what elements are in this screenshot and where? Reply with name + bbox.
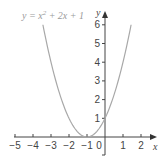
x-axis-label: x [152, 141, 158, 152]
y-tick-label: 5 [94, 38, 100, 49]
x-tick-label: 0 [96, 140, 102, 151]
x-tick-label: −4 [27, 140, 39, 151]
y-tick-label: 1 [94, 113, 100, 124]
y-tick-label: 4 [94, 57, 100, 68]
y-axis [102, 11, 108, 155]
x-tick-label: 1 [120, 140, 126, 151]
x-tick-label: −5 [9, 140, 21, 151]
parabola-chart: −5−4−3−2−1012 123456 x y y = x2 + 2x + 1 [0, 0, 165, 164]
y-tick-label: 2 [94, 94, 100, 105]
parabola-curve [43, 25, 131, 137]
chart-title: y = x2 + 2x + 1 [21, 9, 84, 21]
x-tick-label: −1 [81, 140, 93, 151]
x-axis-arrow-icon [150, 134, 157, 140]
y-ticks: 123456 [94, 19, 105, 124]
y-axis-arrow-icon [102, 11, 108, 18]
x-tick-label: −2 [63, 140, 75, 151]
y-tick-label: 3 [94, 75, 100, 86]
y-axis-label: y [95, 7, 101, 18]
x-tick-label: 2 [138, 140, 144, 151]
y-tick-label: 6 [94, 19, 100, 30]
x-tick-label: −3 [45, 140, 57, 151]
